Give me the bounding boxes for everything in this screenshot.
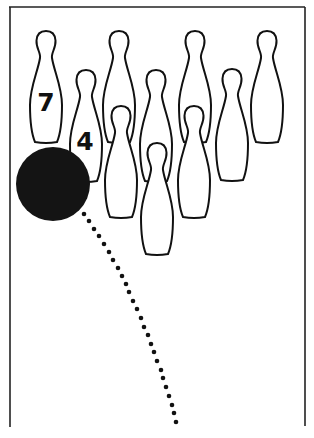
trajectory-dot — [87, 219, 92, 224]
trajectory-dot — [97, 234, 102, 239]
bowling-ball-icon — [16, 147, 90, 221]
trajectory-dot — [102, 242, 107, 247]
trajectory-dot — [167, 394, 172, 399]
trajectory-dot — [146, 333, 151, 338]
trajectory-dot — [107, 250, 112, 255]
trajectory-dot — [124, 282, 129, 287]
pin-6-icon — [216, 69, 248, 181]
trajectory-dot — [172, 411, 177, 416]
pin-10-icon — [251, 31, 283, 143]
trajectory-dot — [164, 385, 169, 390]
pin-7-icon — [30, 31, 62, 143]
trajectory-dot — [149, 342, 154, 347]
trajectory-dot — [174, 420, 179, 425]
trajectory-dot — [161, 376, 166, 381]
trajectory-dot — [92, 227, 97, 232]
trajectory-dot — [155, 359, 160, 364]
trajectory-dot — [127, 290, 132, 295]
trajectory-dot — [116, 266, 121, 271]
trajectory-dot — [120, 274, 125, 279]
trajectory-dot — [135, 307, 140, 312]
pin-7-number: 7 — [37, 88, 54, 117]
pin-4-number: 4 — [76, 127, 93, 156]
trajectory-dot — [152, 350, 157, 355]
trajectory-dot — [131, 299, 136, 304]
bowling-diagram: 7 4 — [0, 0, 314, 438]
trajectory-dot — [142, 325, 147, 330]
pin-rack — [30, 31, 283, 255]
trajectory-dot — [139, 316, 144, 321]
trajectory-dot — [170, 403, 175, 408]
trajectory-dot — [159, 368, 164, 373]
trajectory-dot — [111, 258, 116, 263]
trajectory-dot — [82, 212, 87, 217]
